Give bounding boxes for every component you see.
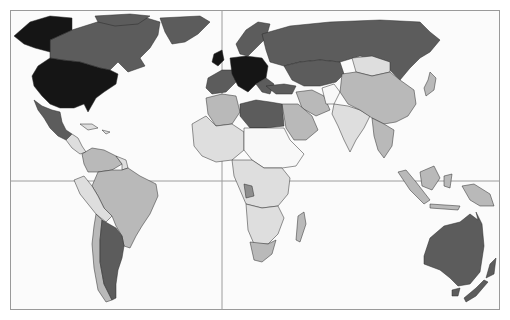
- region-southern-africa: [246, 204, 284, 244]
- world-map: [0, 0, 510, 320]
- region-central-asia: [284, 60, 344, 86]
- region-southeast-asia: [372, 118, 394, 158]
- region-australia: [424, 212, 484, 286]
- region-libya-egypt: [240, 100, 284, 128]
- region-madagascar: [296, 212, 306, 242]
- region-japan: [424, 72, 436, 96]
- region-greenland: [160, 16, 210, 44]
- region-western-europe: [206, 70, 236, 94]
- region-caribbean: [80, 124, 110, 134]
- region-papua-new-guinea: [462, 184, 494, 206]
- region-borneo: [420, 166, 440, 190]
- region-central-america: [66, 134, 86, 154]
- region-tasmania: [452, 288, 460, 296]
- region-south-africa: [250, 240, 276, 262]
- region-venezuela-colombia: [82, 148, 122, 172]
